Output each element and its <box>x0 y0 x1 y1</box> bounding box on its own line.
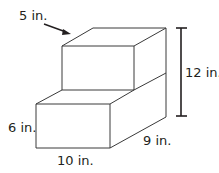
step-prism-diagram: 5 in. 12 in. 6 in. 9 in. 10 in. <box>0 0 219 173</box>
label-top-depth: 5 in. <box>19 8 47 23</box>
bottom-box-front-face <box>36 104 110 148</box>
label-depth: 9 in. <box>143 133 171 148</box>
label-bottom-width: 10 in. <box>57 153 94 168</box>
top-box-top-left-edge <box>62 28 93 46</box>
bottom-box-right-top-edge <box>110 90 134 104</box>
top-box-top-right-edge <box>134 28 166 46</box>
step-line-left <box>36 90 62 104</box>
label-total-height: 12 in. <box>185 65 219 80</box>
label-bottom-height: 6 in. <box>8 120 36 135</box>
top-box-front-face <box>62 46 134 90</box>
step-line-right <box>134 73 166 90</box>
arrow-icon <box>44 24 71 35</box>
